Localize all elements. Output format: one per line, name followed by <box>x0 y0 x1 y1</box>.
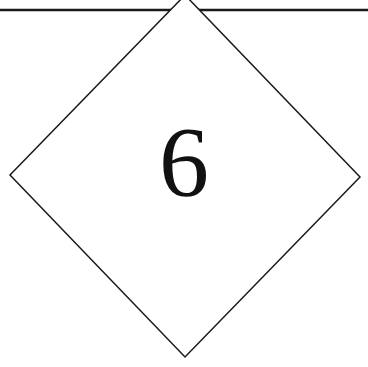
diamond-label: 6 <box>0 112 368 212</box>
